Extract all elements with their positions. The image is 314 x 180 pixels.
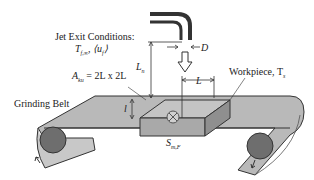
diameter-dimension: [167, 45, 200, 49]
workpiece-label: Workpiece, Ts: [229, 66, 285, 82]
jet-arrow: [178, 52, 192, 72]
nozzle-distance-sub: n: [142, 68, 145, 74]
nozzle: [150, 14, 190, 40]
belt-arrow-left: [35, 157, 40, 163]
grinding-belt-label: Grinding Belt: [14, 98, 69, 109]
jet-exit-vars: Tf,∞, ⟨uf⟩: [75, 43, 108, 59]
nozzle-distance-label: Ln: [136, 61, 145, 77]
workpiece-text: Workpiece, T: [229, 66, 283, 77]
source-sub: m,F: [171, 144, 181, 150]
area-equation: = 2L x 2L: [84, 70, 127, 81]
source-symbol: [167, 111, 179, 123]
diameter-label: D: [201, 42, 208, 53]
jet-exit-title: Jet Exit Conditions:: [55, 31, 134, 42]
thickness-label: l: [124, 103, 127, 114]
length-label: L: [196, 75, 202, 86]
jet-velocity: , ⟨u: [88, 43, 102, 54]
jet-temperature-sub: f,∞: [81, 50, 88, 56]
right-roller: [247, 133, 273, 159]
workpiece-sub: s: [283, 73, 285, 79]
diagram-canvas: [0, 0, 314, 180]
left-roller: [40, 127, 66, 153]
source-label: Sm,F: [166, 137, 181, 153]
nozzle-distance-dimension: [148, 42, 182, 98]
jet-velocity-end: ⟩: [104, 43, 108, 54]
area-label: Aku = 2L x 2L: [72, 70, 126, 86]
